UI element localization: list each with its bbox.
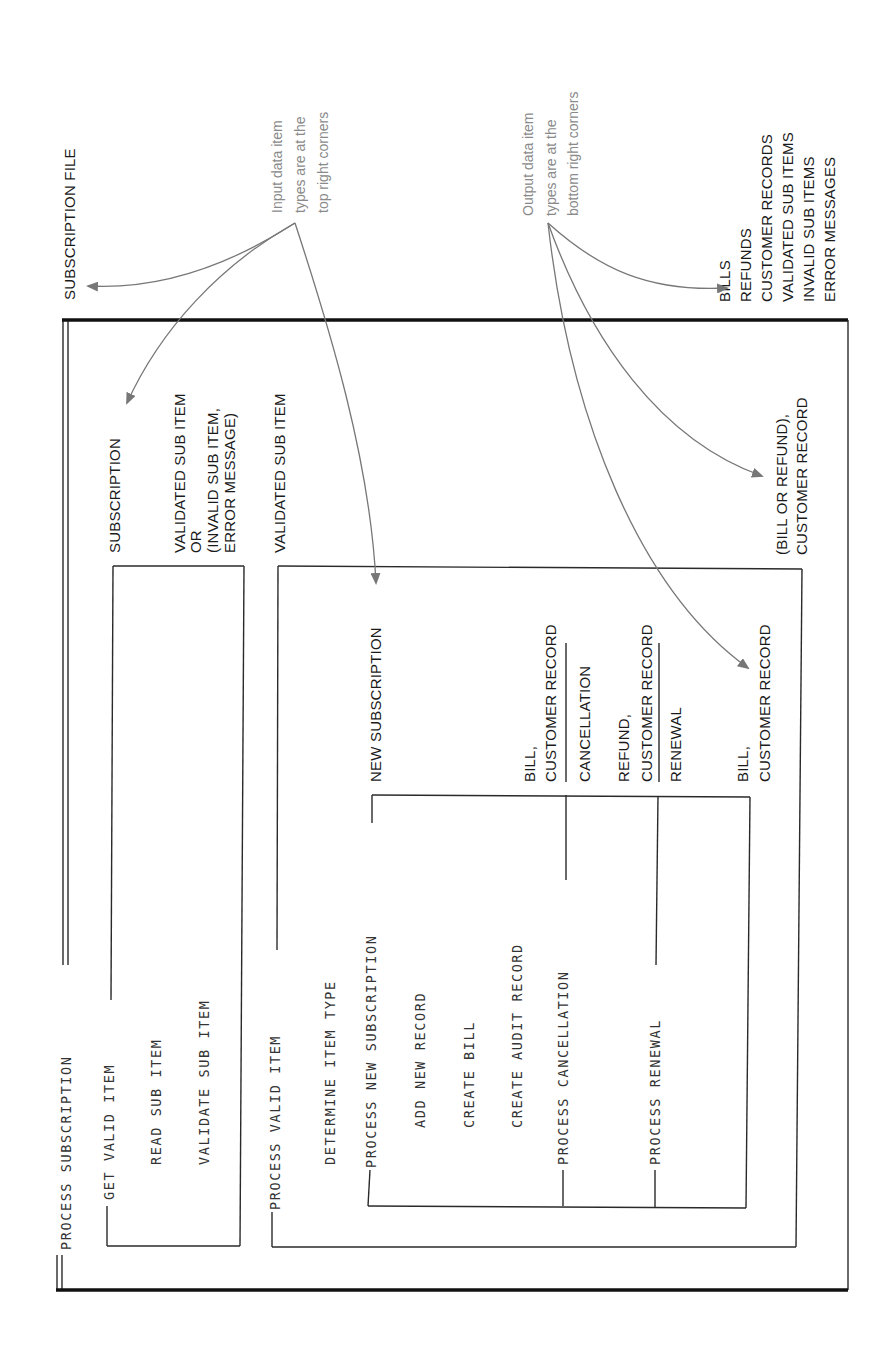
branch-process-cancellation: PROCESS CANCELLATION bbox=[555, 970, 571, 1165]
step-add-new-record: ADD NEW RECORD bbox=[412, 992, 428, 1128]
output-note: Output data item types are at the bottom… bbox=[520, 92, 581, 217]
step-determine-item-type: DETERMINE ITEM TYPE bbox=[322, 980, 338, 1165]
process-valid-item-input: VALIDATED SUB ITEM bbox=[271, 393, 288, 553]
svg-text:(INVALID SUB ITEM,: (INVALID SUB ITEM, bbox=[204, 408, 221, 553]
svg-text:CUSTOMER RECORD: CUSTOMER RECORD bbox=[793, 397, 810, 555]
svg-text:OR: OR bbox=[187, 530, 204, 553]
arrow-to-file-outputs bbox=[548, 223, 727, 288]
svg-text:bottom right corners: bottom right corners bbox=[565, 92, 581, 217]
svg-text:Input data item: Input data item bbox=[269, 120, 285, 213]
svg-text:BILL,: BILL, bbox=[734, 746, 751, 782]
input-note: Input data item types are at the top rig… bbox=[269, 112, 331, 213]
output-customer-records: CUSTOMER RECORDS bbox=[758, 134, 775, 302]
svg-text:CUSTOMER RECORD: CUSTOMER RECORD bbox=[638, 624, 655, 782]
process-subscription-label: PROCESS SUBSCRIPTION bbox=[58, 1055, 74, 1250]
new-subscription-output: BILL, CUSTOMER RECORD bbox=[521, 624, 559, 782]
output-validated-sub-items: VALIDATED SUB ITEMS bbox=[779, 132, 796, 302]
arrow-to-subscription-input bbox=[127, 223, 295, 403]
cancellation-input: CANCELLATION bbox=[576, 666, 593, 782]
step-read-sub-item: READ SUB ITEM bbox=[148, 1039, 164, 1165]
output-refunds: REFUNDS bbox=[737, 228, 754, 302]
svg-text:VALIDATED SUB ITEM: VALIDATED SUB ITEM bbox=[171, 393, 188, 553]
svg-text:CUSTOMER RECORD: CUSTOMER RECORD bbox=[756, 624, 773, 782]
process-subscription-output: (BILL OR REFUND), CUSTOMER RECORD bbox=[773, 397, 810, 555]
step-validate-sub-item: VALIDATE SUB ITEM bbox=[196, 1000, 212, 1165]
svg-text:REFUND,: REFUND, bbox=[615, 714, 632, 782]
process-valid-item-label: PROCESS VALID ITEM bbox=[267, 1035, 283, 1210]
process-valid-item-box bbox=[272, 566, 802, 1247]
svg-text:types are at the: types are at the bbox=[292, 116, 308, 213]
subscription-process-diagram: PROCESS SUBSCRIPTION GET VALID ITEM READ… bbox=[0, 0, 883, 1347]
get-valid-item-box bbox=[107, 566, 244, 1246]
svg-text:BILL,: BILL, bbox=[521, 746, 538, 782]
svg-text:types are at the: types are at the bbox=[543, 119, 559, 216]
step-create-audit-record: CREATE AUDIT RECORD bbox=[509, 943, 525, 1128]
svg-text:CUSTOMER RECORD: CUSTOMER RECORD bbox=[542, 624, 559, 782]
output-invalid-sub-items: INVALID SUB ITEMS bbox=[800, 156, 817, 302]
output-bills: BILLS bbox=[716, 260, 733, 302]
subscription-file-input: SUBSCRIPTION FILE bbox=[61, 148, 78, 300]
output-error-messages: ERROR MESSAGES bbox=[821, 157, 838, 302]
svg-text:top right corners: top right corners bbox=[315, 112, 331, 213]
svg-text:Output data item: Output data item bbox=[520, 112, 536, 216]
get-valid-item-output: VALIDATED SUB ITEM OR (INVALID SUB ITEM,… bbox=[171, 393, 238, 553]
renewal-input: RENEWAL bbox=[667, 707, 684, 782]
branch-process-new-subscription: PROCESS NEW SUBSCRIPTION bbox=[363, 935, 379, 1168]
branch-process-renewal: PROCESS RENEWAL bbox=[647, 1019, 663, 1165]
svg-text:(BILL OR REFUND),: (BILL OR REFUND), bbox=[773, 414, 790, 555]
get-valid-item-label: GET VALID ITEM bbox=[101, 1064, 117, 1200]
file-outputs-list: BILLS REFUNDS CUSTOMER RECORDS VALIDATED… bbox=[716, 132, 838, 302]
renewal-output: BILL, CUSTOMER RECORD bbox=[734, 624, 773, 782]
get-valid-item-input: SUBSCRIPTION bbox=[106, 438, 123, 553]
svg-text:ERROR MESSAGE): ERROR MESSAGE) bbox=[221, 413, 238, 553]
new-subscription-input: NEW SUBSCRIPTION bbox=[367, 627, 384, 782]
cancellation-output: REFUND, CUSTOMER RECORD bbox=[615, 624, 655, 782]
arrow-to-subscription-file bbox=[88, 223, 295, 286]
step-create-bill: CREATE BILL bbox=[461, 1021, 477, 1128]
arrow-to-new-subscription-input bbox=[295, 223, 376, 583]
